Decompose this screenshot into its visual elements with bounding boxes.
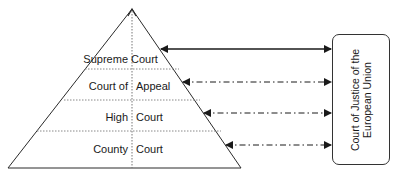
- cjeu-box: Court of Justice of the European Union: [332, 34, 390, 165]
- level-high-right: Court: [136, 111, 163, 123]
- level-appeal-right: Appeal: [136, 80, 170, 92]
- level-supreme-right: Court: [131, 53, 158, 65]
- level-high-left: High: [105, 111, 128, 123]
- level-supreme-left: Supreme: [83, 53, 128, 65]
- cjeu-label-line1: Court of Justice of the: [349, 36, 361, 164]
- cjeu-label: Court of Justice of the European Union: [349, 36, 373, 164]
- cjeu-label-line2: European Union: [361, 36, 373, 164]
- level-county-right: Court: [136, 143, 163, 155]
- level-appeal-left: Court of: [89, 80, 129, 92]
- level-county-left: County: [93, 143, 128, 155]
